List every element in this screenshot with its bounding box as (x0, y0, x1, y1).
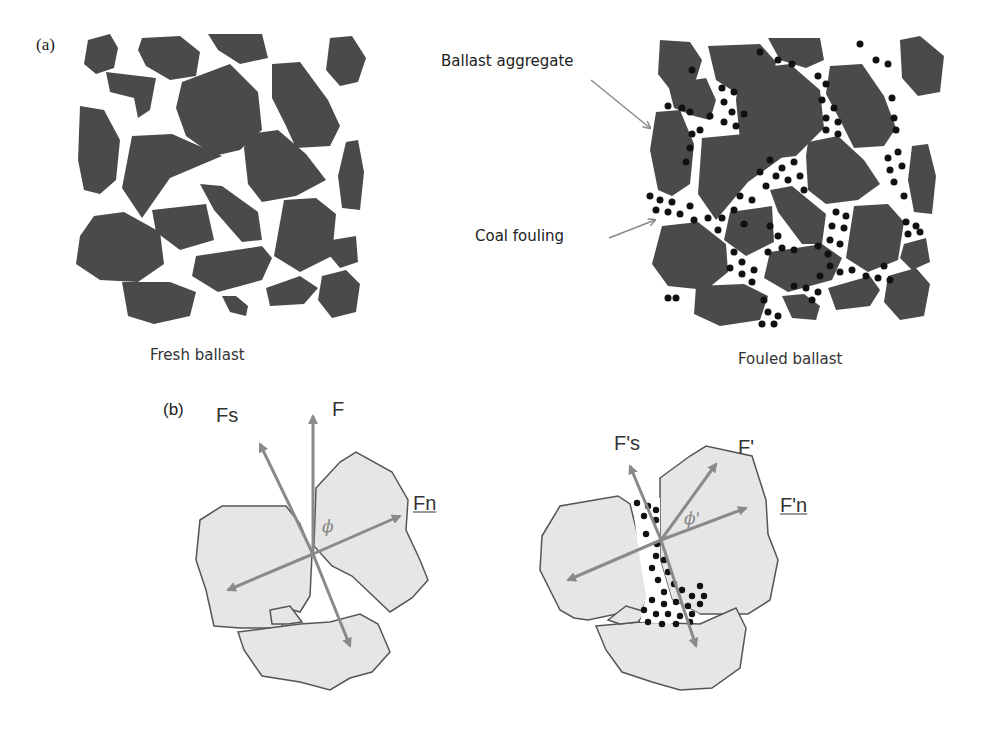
ballast-aggregate-annotation: Ballast aggregate (441, 52, 574, 70)
shear-force-label: Fs (216, 404, 238, 427)
fresh-ballast-caption: Fresh ballast (150, 346, 245, 364)
fouled-friction-angle-label: ϕ' (684, 508, 700, 528)
panel-b-label: (b) (163, 400, 184, 420)
fouled-resultant-force-label: F' (738, 436, 754, 459)
fresh-ballast-aggregates (76, 34, 366, 324)
fouled-shear-force-label: F's (614, 432, 640, 455)
panel-a-label: (a) (36, 35, 55, 55)
fouled-ballast-caption: Fouled ballast (738, 350, 842, 368)
friction-angle-label: ϕ (322, 516, 334, 536)
coal-fouling-annotation: Coal fouling (475, 227, 564, 245)
resultant-force-label: F (332, 398, 344, 421)
fouling-pointer-arrow (609, 220, 655, 238)
normal-force-label: Fn (413, 492, 436, 515)
fouled-normal-force-label: F'n (780, 494, 807, 517)
fouled-ballast-aggregates (650, 36, 944, 326)
aggregate-pointer-arrow (591, 80, 650, 128)
